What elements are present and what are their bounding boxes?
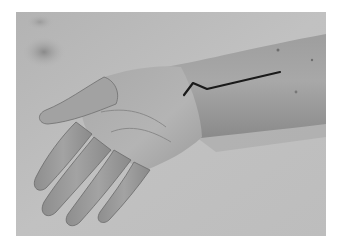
backdrop-stain <box>22 36 66 68</box>
skin-spot <box>311 59 313 61</box>
skin-spot <box>295 91 298 94</box>
image-frame <box>0 0 344 247</box>
backdrop-stain-small <box>26 14 54 30</box>
photo-canvas <box>16 12 326 236</box>
skin-spot <box>277 49 280 52</box>
hand-photograph <box>16 12 326 236</box>
